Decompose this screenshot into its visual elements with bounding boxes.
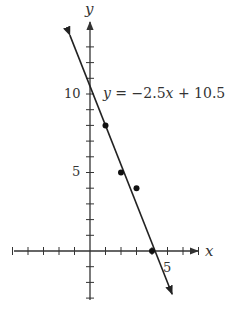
data-point xyxy=(118,170,124,176)
eq-end: + 10.5 xyxy=(173,85,225,101)
data-point xyxy=(134,185,140,191)
scatter-plot-with-regression-line: x 5 y 10 5 y = −2.5x + 10.5 xyxy=(0,0,238,313)
x-axis: x 5 xyxy=(13,242,215,275)
data-point xyxy=(103,122,109,128)
regression-equation: y = −2.5x + 10.5 xyxy=(102,85,225,101)
regression-line xyxy=(70,35,172,294)
y-axis: y 10 5 xyxy=(64,0,94,300)
eq-mid: = −2.5 xyxy=(111,85,166,101)
eq-x: x xyxy=(166,85,174,101)
y-axis-label: y xyxy=(84,0,94,18)
data-points xyxy=(103,122,156,254)
y-tick-label-10: 10 xyxy=(64,86,81,101)
x-axis-label: x xyxy=(205,242,214,260)
data-point xyxy=(149,248,155,254)
y-tick-label-5: 5 xyxy=(72,164,80,179)
